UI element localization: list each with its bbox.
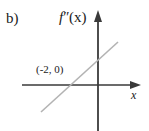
function-label-argument: (x) [69,9,87,25]
function-line [41,42,118,112]
figure-panel: b) f″(x) (-2, 0) x [0,0,149,131]
function-label: f″(x) [59,10,86,25]
part-label: b) [6,11,19,26]
y-axis-arrowhead [94,10,102,22]
point-coordinate-label: (-2, 0) [36,64,64,75]
x-axis-label: x [131,89,136,101]
